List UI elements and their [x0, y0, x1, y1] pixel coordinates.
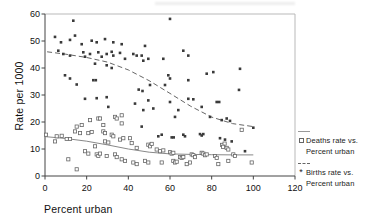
birth-rate-point — [225, 117, 228, 120]
death-rate-point — [217, 163, 220, 166]
death-rate-point — [78, 132, 81, 135]
death-rate-point — [155, 148, 158, 151]
birth-rate-point — [230, 140, 233, 143]
y-tick-label: 50 — [30, 36, 40, 46]
birth-rate-point — [174, 116, 177, 119]
x-tick-label: 0 — [42, 183, 47, 193]
birth-rate-point — [120, 43, 123, 46]
y-tick-label: 20 — [30, 117, 40, 127]
birth-rate-point — [152, 107, 155, 110]
birth-rate-point — [54, 36, 57, 39]
legend-item-deaths: Deaths rate vs. Percent urban — [296, 136, 374, 157]
birth-rate-point — [62, 53, 65, 56]
legend-dashed-line-sample — [298, 163, 310, 164]
birth-rate-point — [141, 90, 144, 93]
birth-rate-point — [238, 89, 241, 92]
legend-births-line2: Percent urban — [306, 179, 354, 188]
death-rate-point — [68, 137, 71, 140]
death-rate-point — [182, 156, 185, 159]
death-rate-point — [120, 158, 123, 161]
death-rate-point — [122, 137, 125, 140]
birth-rate-point — [212, 71, 215, 74]
birth-rate-point — [82, 51, 85, 54]
death-rate-point — [60, 134, 63, 137]
x-tick-label: 40 — [123, 183, 133, 193]
birth-rate-point — [144, 45, 147, 48]
birth-rate-point — [157, 135, 160, 138]
death-rate-point — [93, 145, 96, 148]
birth-rate-point — [135, 54, 138, 57]
birth-rate-point — [244, 150, 247, 153]
birth-rate-point — [182, 49, 185, 52]
birth-rate-point — [205, 72, 208, 75]
birth-rate-point — [95, 79, 98, 82]
y-tick-label: 30 — [30, 90, 40, 100]
death-rate-point — [250, 161, 253, 164]
death-rate-point — [233, 154, 236, 157]
legend-solid-line-sample — [298, 131, 310, 132]
birth-rate-point — [147, 99, 150, 102]
birth-rate-point — [239, 68, 242, 71]
death-rate-point — [150, 142, 153, 145]
birth-rate-point — [110, 67, 113, 70]
death-rate-point — [98, 152, 101, 155]
death-rate-point — [44, 133, 47, 136]
death-rate-point — [223, 142, 226, 145]
birth-rate-point — [105, 96, 108, 99]
legend-label-deaths: Deaths rate vs. Percent urban — [306, 136, 358, 157]
birth-rate-point — [112, 41, 115, 44]
birth-rate-point — [94, 62, 97, 65]
y-tick-label: 10 — [30, 144, 40, 154]
death-rate-point — [215, 156, 218, 159]
birth-rate-point — [160, 133, 163, 136]
birth-rate-point — [84, 55, 87, 58]
death-rate-point — [120, 114, 123, 117]
birth-rate-point — [132, 53, 135, 56]
asterisk-marker-icon: * — [296, 168, 306, 175]
death-rate-point — [112, 135, 115, 138]
x-tick-label: 60 — [165, 183, 175, 193]
birth-rate-point — [187, 98, 190, 101]
open-square-marker-icon — [296, 136, 306, 143]
birth-rate-point — [149, 84, 152, 87]
birth-rate-point — [224, 138, 227, 141]
death-rate-point — [103, 132, 106, 135]
death-rate-point — [53, 140, 56, 143]
birth-rate-point — [60, 41, 63, 44]
death-rate-point — [172, 151, 175, 154]
death-rate-point — [118, 138, 121, 141]
birth-rate-point — [95, 41, 98, 44]
x-tick-label: 20 — [82, 183, 92, 193]
death-rate-point — [135, 146, 138, 149]
y-tick-label: 60 — [30, 9, 40, 19]
death-rate-point — [130, 142, 133, 145]
death-rate-point — [55, 135, 58, 138]
death-rate-point — [193, 156, 196, 159]
death-rate-point — [135, 163, 138, 166]
birth-rate-point — [202, 133, 205, 136]
y-tick-label: 40 — [30, 63, 40, 73]
death-rate-point — [227, 159, 230, 162]
death-rate-point — [120, 122, 123, 125]
birth-rate-point — [104, 38, 107, 41]
birth-rate-point — [140, 125, 143, 128]
y-tick-label: 0 — [35, 171, 40, 181]
birth-rate-point — [192, 98, 195, 101]
birth-rate-point — [169, 101, 172, 104]
birth-rate-point — [252, 126, 255, 129]
birth-rate-point — [107, 106, 110, 109]
birth-rate-point — [124, 58, 127, 61]
birth-rate-point — [172, 136, 175, 139]
death-rate-point — [98, 117, 101, 120]
birth-rate-point — [84, 98, 87, 101]
death-rate-point — [222, 145, 225, 148]
birth-rate-point — [187, 79, 190, 82]
birth-rate-point — [147, 58, 150, 61]
birth-rate-point — [80, 43, 83, 46]
birth-rate-point — [219, 137, 222, 140]
legend: Deaths rate vs. Percent urban * Births r… — [296, 131, 374, 195]
death-rate-point — [143, 159, 146, 162]
death-rate-point — [102, 123, 105, 126]
birth-rate-point — [64, 74, 67, 77]
death-rate-point — [162, 149, 165, 152]
